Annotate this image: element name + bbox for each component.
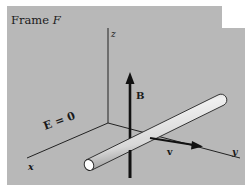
x-axis-label: x xyxy=(27,161,34,172)
z-axis-label: z xyxy=(110,29,116,39)
frame-diagram: Frame F z B E = 0 x y v xyxy=(0,0,252,194)
b-field-label: B xyxy=(136,90,144,101)
velocity-label: v xyxy=(166,146,173,157)
frame-title: Frame F xyxy=(11,13,62,27)
frame-panel xyxy=(7,6,245,185)
diagram-canvas: Frame F z B E = 0 x y v xyxy=(0,0,252,194)
